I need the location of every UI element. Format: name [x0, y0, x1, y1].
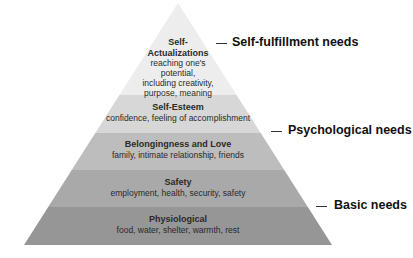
layer-desc: potential,	[128, 68, 228, 78]
layer-title: Self-	[128, 37, 228, 48]
psychological-connector	[271, 131, 282, 132]
layer-desc: food, water, shelter, warmth, rest	[88, 225, 268, 235]
layer-self-actualization: Self- Actualizations reaching one's pote…	[128, 37, 228, 98]
layer-physiological: Physiological food, water, shelter, warm…	[88, 214, 268, 235]
layer-title: Actualizations	[128, 48, 228, 59]
layer-belongingness: Belongingness and Love family, intimate …	[88, 139, 268, 160]
layer-desc: purpose, meaning	[128, 88, 228, 98]
layer-desc: family, intimate relationship, friends	[88, 150, 268, 160]
need-label-self-fulfillment: Self-fulfillment needs	[232, 35, 358, 49]
self-fulfillment-connector	[216, 43, 227, 44]
layer-desc: reaching one's	[128, 58, 228, 68]
basic-needs-connector	[316, 206, 327, 207]
layer-title: Belongingness and Love	[88, 139, 268, 150]
layer-desc: confidence, feeling of accomplishment	[88, 113, 268, 123]
layer-safety: Safety employment, health, security, saf…	[88, 177, 268, 198]
layer-desc: employment, health, security, safety	[88, 188, 268, 198]
layer-desc: including creativity,	[128, 78, 228, 88]
layer-title: Safety	[88, 177, 268, 188]
layer-title: Self-Esteem	[88, 102, 268, 113]
need-label-basic: Basic needs	[334, 198, 407, 212]
layer-self-esteem: Self-Esteem confidence, feeling of accom…	[88, 102, 268, 123]
layer-title: Physiological	[88, 214, 268, 225]
need-label-psychological: Psychological needs	[288, 123, 412, 137]
